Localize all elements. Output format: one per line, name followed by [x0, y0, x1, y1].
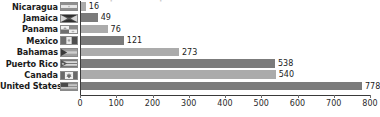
- axis-tick: [80, 95, 81, 98]
- category-label: Nicaragua: [0, 2, 60, 12]
- axis-tick-label: 600: [290, 99, 305, 108]
- axis-tick-label: 800: [362, 99, 377, 108]
- flag-mexico-icon: [60, 36, 78, 45]
- category-label: Jamaica: [0, 13, 60, 23]
- bar: [80, 59, 275, 68]
- category-label: Canada: [0, 70, 60, 80]
- flag-puerto-rico-icon: [60, 59, 78, 68]
- bar-track: 273: [80, 47, 372, 58]
- category-label: Panama: [0, 24, 60, 34]
- bar-track: 538: [80, 58, 372, 69]
- bar-track: 49: [80, 12, 372, 23]
- axis-tick: [261, 95, 262, 98]
- flag-bahamas-icon: [60, 48, 78, 57]
- plot-area: Nicaragua16Jamaica49Panama76Mexico121Bah…: [0, 1, 372, 94]
- bar-track: 540: [80, 69, 372, 80]
- bar: [80, 82, 362, 91]
- chart-row: Puerto Rico538: [0, 58, 372, 69]
- bar-value-label: 778: [365, 81, 380, 92]
- axis-tick: [298, 95, 299, 98]
- flag-panama-icon: [60, 25, 78, 34]
- axis-tick-label: 500: [254, 99, 269, 108]
- category-label: Puerto Rico: [0, 59, 60, 69]
- chart-row: Mexico121: [0, 35, 372, 46]
- bar-track: 16: [80, 1, 372, 12]
- axis-tick: [225, 95, 226, 98]
- category-label: Bahamas: [0, 47, 60, 57]
- chart-row: Panama76: [0, 24, 372, 35]
- chart-row: Jamaica49: [0, 12, 372, 23]
- bar-value-label: 273: [182, 47, 197, 58]
- axis-tick-label: 100: [109, 99, 124, 108]
- chart-row: United States778: [0, 81, 372, 92]
- bar-value-label: 121: [127, 35, 142, 46]
- bar: [80, 48, 179, 57]
- flag-nicaragua-icon: [60, 2, 78, 11]
- category-label: United States: [0, 81, 60, 91]
- axis-tick: [370, 95, 371, 98]
- bar: [80, 25, 108, 34]
- axis-tick-label: 200: [145, 99, 160, 108]
- bar: [80, 70, 276, 79]
- bar-value-label: 540: [279, 69, 294, 80]
- flag-canada-icon: [60, 71, 78, 80]
- bar-value-label: 76: [111, 24, 121, 35]
- bar: [80, 13, 98, 22]
- axis-tick-label: 0: [77, 99, 82, 108]
- category-label: Mexico: [0, 36, 60, 46]
- bar-value-label: 16: [89, 1, 99, 12]
- chart-row: Nicaragua16: [0, 1, 372, 12]
- chart-row: Bahamas273: [0, 47, 372, 58]
- bar-track: 121: [80, 35, 372, 46]
- bar: [80, 36, 124, 45]
- axis-tick-label: 700: [326, 99, 341, 108]
- axis-tick: [153, 95, 154, 98]
- axis-tick-label: 300: [181, 99, 196, 108]
- axis-tick-label: 400: [217, 99, 232, 108]
- axis-tick: [189, 95, 190, 98]
- bar-value-label: 538: [278, 58, 293, 69]
- y-axis-line: [80, 1, 81, 95]
- axis-tick: [116, 95, 117, 98]
- chart-row: Canada540: [0, 69, 372, 80]
- flag-united-states-icon: [60, 82, 78, 91]
- bar-track: 778: [80, 81, 372, 92]
- axis-tick: [334, 95, 335, 98]
- bar-value-label: 49: [101, 12, 111, 23]
- bar-track: 76: [80, 24, 372, 35]
- flag-jamaica-icon: [60, 14, 78, 23]
